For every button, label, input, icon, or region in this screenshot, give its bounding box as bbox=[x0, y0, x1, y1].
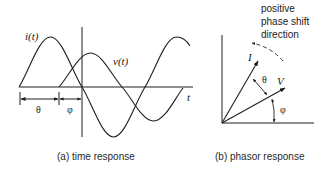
theta-label: θ bbox=[36, 104, 41, 115]
caption-b: (b) phasor response bbox=[215, 151, 305, 162]
current-phasor-label: I bbox=[247, 51, 253, 63]
direction-note-line3: direction bbox=[261, 29, 299, 40]
caption-a: (a) time response bbox=[57, 151, 135, 162]
phasor-response-panel: I V θ φ positive phase shift direction (… bbox=[215, 3, 314, 162]
phase-diagram: i(t) v(t) t θ φ (a) time response I V θ … bbox=[0, 0, 330, 175]
current-phasor-arrow bbox=[222, 61, 258, 123]
phi-arc-arrow bbox=[272, 99, 274, 122]
phasor-theta-label: θ bbox=[262, 74, 267, 85]
current-label: i(t) bbox=[25, 30, 39, 43]
time-axis-label: t bbox=[187, 91, 191, 103]
phi-label: φ bbox=[67, 104, 73, 115]
voltage-phasor-label: V bbox=[277, 75, 285, 87]
direction-note-line2: phase shift bbox=[261, 16, 310, 27]
time-response-panel: i(t) v(t) t θ φ (a) time response bbox=[19, 27, 193, 162]
voltage-label: v(t) bbox=[113, 55, 129, 68]
rotation-direction-arrow bbox=[252, 43, 283, 61]
direction-note-line1: positive bbox=[261, 3, 295, 14]
voltage-phasor-arrow bbox=[222, 88, 285, 123]
phasor-phi-label: φ bbox=[280, 104, 286, 115]
